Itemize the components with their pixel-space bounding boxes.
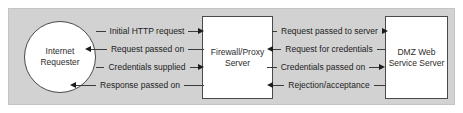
flow-label: Response passed on <box>96 81 184 90</box>
node-firewall-proxy-server: Firewall/Proxy Server <box>202 16 273 99</box>
flow-line <box>188 31 198 32</box>
flow-line <box>96 67 104 68</box>
arrow-right-icon <box>379 64 385 70</box>
flow-request-passed-to-server: Request passed to server <box>272 23 385 39</box>
arrow-right-icon <box>198 28 204 34</box>
node-firewall-proxy-server-label-line1: Firewall/Proxy <box>211 47 264 58</box>
flow-line <box>96 31 106 32</box>
flow-credentials-supplied: Credentials supplied <box>96 59 204 75</box>
flow-line <box>76 85 96 86</box>
node-dmz-web-service-server-label-line1: DMZ Web <box>397 47 435 58</box>
flow-request-for-credentials: Request for credentials <box>267 41 385 57</box>
flow-label: Credentials supplied <box>104 63 189 72</box>
flow-label: Request for credentials <box>281 45 376 54</box>
flow-label: Request passed on <box>107 45 188 54</box>
flow-rejection-acceptance: Rejection/acceptance <box>267 77 385 93</box>
flow-request-passed-on: Request passed on <box>85 41 204 57</box>
flow-label: Initial HTTP request <box>106 27 189 36</box>
flow-initial-http-request: Initial HTTP request <box>96 23 204 39</box>
node-internet-requester-label-line2: Requester <box>40 57 79 68</box>
node-internet-requester-label-line1: Internet <box>46 46 75 57</box>
arrow-right-icon <box>382 28 388 34</box>
flow-line <box>190 67 198 68</box>
flow-line <box>188 49 204 50</box>
flow-line <box>374 85 385 86</box>
arrow-right-icon <box>198 64 204 70</box>
flow-line <box>273 49 281 50</box>
flow-label: Request passed to server <box>277 27 382 36</box>
flow-line <box>91 49 107 50</box>
flow-line <box>184 85 204 86</box>
node-firewall-proxy-server-label-line2: Server <box>225 58 250 69</box>
flow-label: Rejection/acceptance <box>284 81 373 90</box>
flow-line <box>273 85 284 86</box>
flow-line <box>267 67 277 68</box>
flow-response-passed-on: Response passed on <box>70 77 204 93</box>
flow-label: Credentials passed on <box>277 63 370 72</box>
node-dmz-web-service-server: DMZ Web Service Server <box>385 16 448 99</box>
flow-line <box>377 49 385 50</box>
node-dmz-web-service-server-label-line2: Service Server <box>389 58 445 69</box>
flow-credentials-passed-on: Credentials passed on <box>267 59 385 75</box>
flow-line <box>369 67 379 68</box>
diagram-canvas: Internet Requester Firewall/Proxy Server… <box>0 0 463 113</box>
